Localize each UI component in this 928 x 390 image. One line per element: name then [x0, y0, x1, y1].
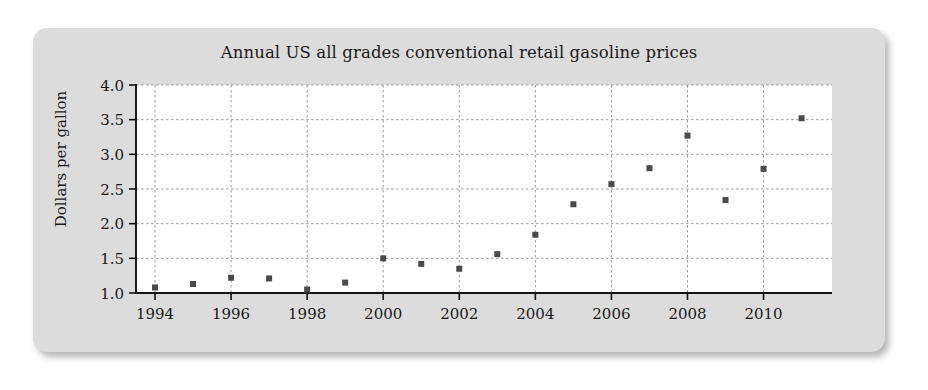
figure-card: Annual US all grades conventional retail… — [33, 28, 885, 352]
y-tick-label: 1.0 — [100, 285, 124, 303]
data-point-marker — [418, 261, 424, 267]
data-point-marker — [152, 284, 158, 290]
data-point-marker — [799, 115, 805, 121]
x-tick-label: 2006 — [592, 305, 630, 323]
data-point-marker — [190, 281, 196, 287]
x-tick-label: 1998 — [288, 305, 326, 323]
x-tick-label: 2000 — [364, 305, 402, 323]
x-tick-label: 2004 — [516, 305, 554, 323]
data-point-marker — [266, 275, 272, 281]
data-point-marker — [228, 275, 234, 281]
x-tick-label: 1994 — [136, 305, 174, 323]
data-point-marker — [646, 165, 652, 171]
data-point-marker — [684, 133, 690, 139]
scatter-plot: 1.01.52.02.53.03.54.01994199619982000200… — [33, 28, 885, 352]
data-point-marker — [570, 201, 576, 207]
data-point-marker — [723, 197, 729, 203]
data-point-marker — [380, 255, 386, 261]
x-tick-label: 1996 — [212, 305, 250, 323]
y-tick-label: 2.5 — [100, 181, 124, 199]
y-tick-label: 3.5 — [100, 111, 124, 129]
data-point-marker — [608, 181, 614, 187]
y-tick-label: 1.5 — [100, 250, 124, 268]
data-point-marker — [456, 266, 462, 272]
x-tick-label: 2008 — [668, 305, 706, 323]
x-tick-label: 2010 — [744, 305, 782, 323]
data-point-marker — [532, 232, 538, 238]
x-tick-label: 2002 — [440, 305, 478, 323]
data-point-marker — [761, 166, 767, 172]
data-point-marker — [304, 287, 310, 293]
data-point-marker — [494, 251, 500, 257]
data-point-marker — [342, 280, 348, 286]
y-tick-label: 2.0 — [100, 215, 124, 233]
y-tick-label: 3.0 — [100, 146, 124, 164]
y-tick-label: 4.0 — [100, 77, 124, 95]
